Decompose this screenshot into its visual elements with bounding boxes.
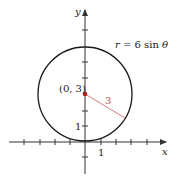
y-tick-label-1: 1 [75,121,81,132]
equation-label: r = 6 sin θ [115,39,168,50]
radius-label: 3 [105,95,111,106]
polar-graph: y x r = 6 sin θ (0, 3) 3 1 1 [0,0,179,181]
x-axis-label: x [162,146,168,157]
center-label: (0, 3) [59,83,86,94]
y-axis-label: y [74,6,81,17]
x-tick-label-1: 1 [98,147,104,158]
